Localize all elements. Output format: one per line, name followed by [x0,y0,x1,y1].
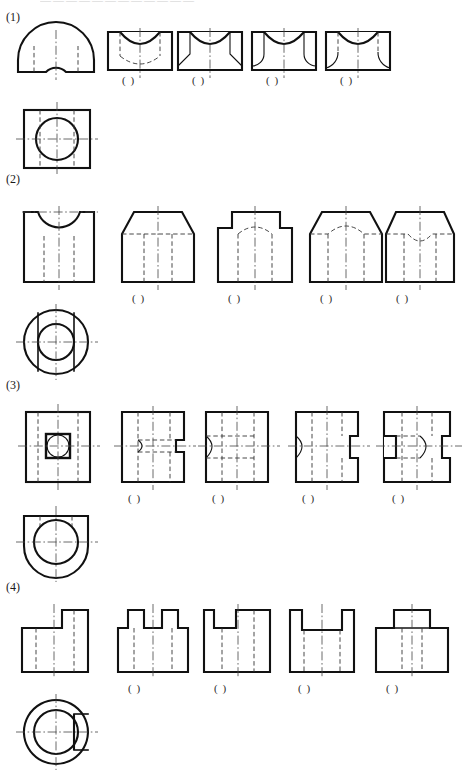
worksheet-sheet: ———————————— (1) ( ) ( ) [0,0,464,774]
exercise-2-option-b-view[interactable] [212,204,304,290]
cut-off-header-text: ———————————— [40,0,290,2]
exercise-2-answer-a[interactable]: ( ) [132,292,145,304]
exercise-3-top-view [12,502,104,584]
exercise-2-answer-b[interactable]: ( ) [228,292,241,304]
exercise-3-answer-b[interactable]: ( ) [212,492,225,504]
exercise-4-option-c-view[interactable] [282,602,374,678]
exercise-4-answer-c[interactable]: ( ) [298,682,311,694]
exercise-4-option-a-view[interactable] [110,602,202,678]
exercise-2-option-a-view[interactable] [116,204,208,290]
exercise-3-answer-a[interactable]: ( ) [128,492,141,504]
exercise-1-answer-d[interactable]: ( ) [340,74,353,86]
exercise-3-option-b-view[interactable] [196,402,288,488]
exercise-1-answer-b[interactable]: ( ) [192,74,205,86]
exercise-3-group: (3) ( ) [0,378,464,590]
exercise-2-option-d-view[interactable] [382,204,464,290]
exercise-4-answer-b[interactable]: ( ) [214,682,227,694]
exercise-4-option-b-view[interactable] [196,602,288,678]
exercise-2-front-view [14,204,106,290]
exercise-3-option-c-view[interactable] [286,402,378,488]
exercise-4-answer-d[interactable]: ( ) [386,682,399,694]
exercise-2-answer-d[interactable]: ( ) [396,292,409,304]
exercise-4-front-view [14,602,106,678]
exercise-1-top-view [14,100,106,172]
exercise-1-group: (1) ( ) ( ) [0,8,464,168]
exercise-3-answer-c[interactable]: ( ) [302,492,315,504]
exercise-1-front-view [14,24,106,76]
exercise-1-number: (1) [6,10,20,25]
exercise-3-front-view [14,402,106,488]
exercise-3-option-a-view[interactable] [112,402,204,488]
exercise-2-group: (2) ( ) ( ) [0,172,464,384]
exercise-4-option-d-view[interactable] [368,602,460,678]
exercise-1-option-c-view[interactable] [248,26,326,72]
exercise-1-option-d-view[interactable] [322,26,400,72]
exercise-4-top-view [12,692,104,772]
exercise-4-answer-a[interactable]: ( ) [128,682,141,694]
exercise-4-group: (4) ( ) ( ) [0,580,464,774]
exercise-2-top-view [12,302,104,382]
exercise-3-answer-d[interactable]: ( ) [392,492,405,504]
exercise-3-number: (3) [6,378,20,393]
exercise-1-answer-c[interactable]: ( ) [266,74,279,86]
exercise-2-answer-c[interactable]: ( ) [320,292,333,304]
exercise-4-number: (4) [6,580,20,595]
exercise-2-number: (2) [6,172,20,187]
exercise-1-answer-a[interactable]: ( ) [122,74,135,86]
exercise-1-option-b-view[interactable] [174,26,252,72]
exercise-1-option-a-view[interactable] [104,26,182,72]
exercise-3-option-d-view[interactable] [374,402,464,488]
